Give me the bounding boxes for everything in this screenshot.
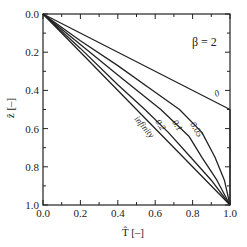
y-tick-label: 1.0 bbox=[25, 199, 39, 211]
y-tick-label: 0.2 bbox=[25, 46, 39, 58]
y-tick-label: 0.6 bbox=[25, 123, 39, 135]
y-tick-label: 0.4 bbox=[25, 84, 39, 96]
x-tick-label: 1.0 bbox=[223, 207, 237, 219]
curve-label-0: 0 bbox=[213, 88, 222, 99]
y-axis-label: ẑ [–] bbox=[4, 98, 16, 118]
x-tick-label: 0.8 bbox=[186, 207, 200, 219]
y-tick-label: 0.0 bbox=[25, 8, 39, 20]
y-tick-labels: 0.00.20.40.60.81.0 bbox=[25, 8, 39, 211]
x-tick-labels: 0.00.20.40.60.81.0 bbox=[36, 207, 237, 219]
x-tick-label: 0.2 bbox=[74, 207, 88, 219]
beta-annotation: β = 2 bbox=[192, 35, 217, 49]
x-axis-label: T̂ [–] bbox=[122, 226, 144, 238]
curve-label-0.05: 0.05 bbox=[188, 120, 205, 139]
x-tick-label: 0.6 bbox=[148, 207, 162, 219]
chart-canvas: 0.00.20.40.60.81.0 0.00.20.40.60.81.0 β … bbox=[0, 0, 247, 247]
x-tick-label: 0.4 bbox=[111, 207, 125, 219]
y-tick-label: 0.8 bbox=[25, 161, 39, 173]
